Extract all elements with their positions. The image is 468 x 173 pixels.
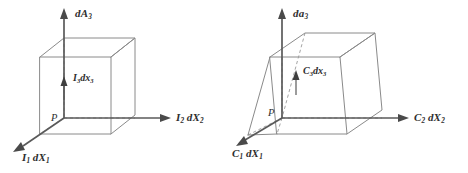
left-point-p-label: P xyxy=(51,113,57,124)
left-thickness-vector-label: I3dx3 xyxy=(73,73,94,83)
right-thickness-vector-label: C3dx3 xyxy=(303,66,326,76)
parallelepiped-axis-x1-arrowhead xyxy=(236,136,248,146)
right-point-p-label: P xyxy=(268,108,274,119)
cube-axis-vertical-arrowhead xyxy=(60,8,68,19)
parallelepiped-hidden-slant-edge xyxy=(282,33,305,118)
parallelepiped-top-face-edges xyxy=(270,33,375,57)
right-axis-x2-label: C2dX2 xyxy=(414,112,445,123)
vector-diagram: dA3 I3dx3 P I2dX2 I1dX1 da3 C3dx3 P C2dX… xyxy=(0,0,468,173)
cube-top-face-edges xyxy=(40,38,135,57)
parallelepiped-left-slant-edge xyxy=(248,57,270,135)
left-axis-x2-label: I2dX2 xyxy=(176,112,204,123)
right-axis-x1-label: C1dX1 xyxy=(232,148,263,159)
right-normal-vector-label: da3 xyxy=(293,8,308,19)
parallelepiped-axis-vertical-arrowhead xyxy=(278,8,286,19)
cube-axis-x2-arrowhead xyxy=(160,114,171,122)
left-axis-x1-label: I1dX1 xyxy=(22,152,50,163)
cube-right-face-edges xyxy=(111,38,135,134)
left-normal-vector-label: dA3 xyxy=(75,8,92,19)
right-parallelepiped-group xyxy=(236,8,409,146)
parallelepiped-axis-x2-arrowhead xyxy=(398,114,409,122)
